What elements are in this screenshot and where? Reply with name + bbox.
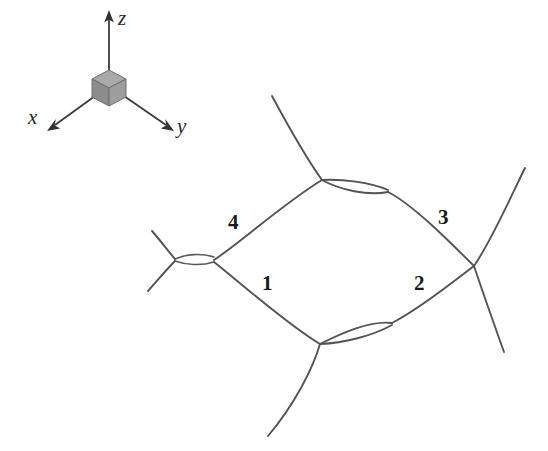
wire-network-diagram: 1 2 3 4 <box>148 96 525 436</box>
strand-segment-2 <box>392 266 474 323</box>
strand-left-lower-tail <box>148 261 175 291</box>
figure-canvas: z x y <box>0 0 548 451</box>
axis-y-line <box>124 96 166 125</box>
strand-left-lens-lower <box>175 261 214 265</box>
segment-label-2: 2 <box>414 271 425 295</box>
axis-y-arrowhead <box>161 119 174 131</box>
axis-y: y <box>124 96 187 138</box>
axis-y-label: y <box>175 114 187 138</box>
strand-right-upper-tail <box>474 168 525 266</box>
axis-x: x <box>27 96 95 131</box>
axis-z-label: z <box>117 6 126 30</box>
strand-right-lower-tail <box>474 266 504 352</box>
strand-top-left-tail <box>272 96 322 180</box>
axis-x-arrowhead <box>47 119 60 131</box>
segment-label-3: 3 <box>438 205 449 229</box>
axis-x-label: x <box>27 105 38 129</box>
strand-segment-3 <box>388 192 474 266</box>
coordinate-axes-inset: z x y <box>27 6 187 138</box>
segment-label-4: 4 <box>228 210 239 234</box>
segment-label-1: 1 <box>262 271 273 295</box>
axis-x-line <box>55 96 95 125</box>
strand-bottom-center-tail <box>268 344 320 436</box>
figure-root: z x y <box>0 0 548 451</box>
strand-left-upper-tail <box>152 231 175 259</box>
strand-bottom-lens-upper <box>320 323 392 344</box>
strand-left-lens-upper <box>175 255 214 259</box>
origin-cube-icon <box>92 70 126 106</box>
